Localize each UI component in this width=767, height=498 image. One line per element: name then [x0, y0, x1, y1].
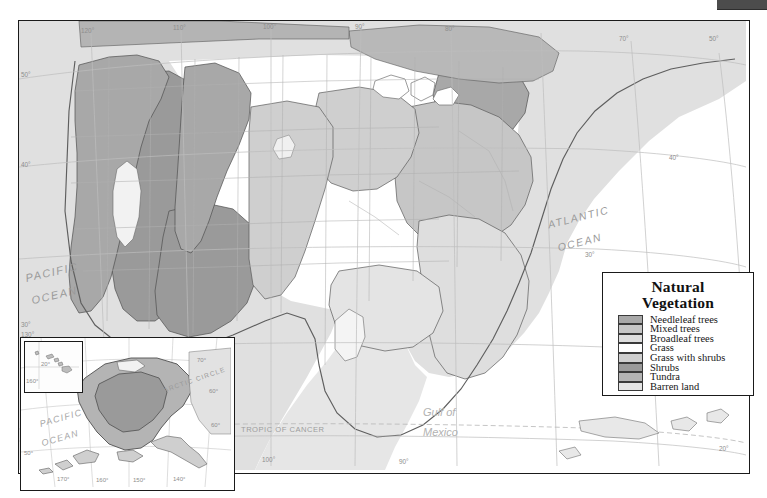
- legend-item: Shrubs: [618, 363, 747, 373]
- legend-title-line1: Natural: [609, 279, 747, 295]
- hawaii-lon-label: 160°: [26, 378, 38, 384]
- map-legend: Natural Vegetation Needleleaf treesMixed…: [602, 272, 754, 396]
- legend-swatch: [618, 363, 643, 373]
- lat-label-left-30: 30°: [21, 321, 31, 328]
- legend-title-line2: Vegetation: [609, 295, 747, 311]
- lon-label-70: 70°: [619, 35, 629, 42]
- legend-items: Needleleaf treesMixed treesBroadleaf tre…: [618, 315, 747, 392]
- legend-swatch: [618, 382, 643, 392]
- legend-title: Natural Vegetation: [609, 279, 747, 311]
- lon-label-80: 80°: [445, 25, 455, 32]
- alaska-left-lat-label: 50°: [24, 450, 33, 456]
- legend-item: Grass with shrubs: [618, 353, 747, 363]
- tropic-of-cancer-label: TROPIC OF CANCER: [241, 425, 325, 434]
- alaska-lon-label-150: 150°: [133, 477, 145, 483]
- legend-swatch: [618, 343, 643, 353]
- lon-label-bottom-100: 100°: [262, 456, 275, 463]
- hawaii-lat-label: 20°: [41, 361, 50, 367]
- alaska-lon-label-170: 170°: [57, 476, 69, 482]
- lat-label-right-20: 20°: [719, 445, 729, 452]
- lon-label-110: 110°: [173, 24, 186, 31]
- gulf-of-mexico-label: Gulf of: [423, 406, 455, 418]
- legend-swatch: [618, 324, 643, 334]
- lat-label-left-50: 50°: [21, 71, 31, 78]
- alaska-lat-label-60-right: 60°: [209, 388, 218, 394]
- lon-label-120: 120°: [81, 27, 94, 34]
- alaska-lat-label-70: 70°: [197, 357, 206, 363]
- lon-label-90: 90°: [355, 23, 365, 30]
- alaska-inset-map: 20° 160° ARCTIC CIRCLE PACIFIC OCEAN 170…: [20, 337, 235, 491]
- legend-swatch: [618, 353, 643, 363]
- legend-label: Barren land: [650, 382, 699, 392]
- legend-swatch: [618, 334, 643, 344]
- legend-swatch: [618, 315, 643, 325]
- legend-item: Broadleaf trees: [618, 334, 747, 344]
- hawaii-inset-map: 20° 160°: [24, 341, 83, 393]
- alaska-lon-label-160: 160°: [96, 477, 108, 483]
- alaska-lon-label-140: 140°: [173, 476, 185, 482]
- top-status-bar: [717, 0, 767, 10]
- lat-label-left-40: 40°: [21, 161, 31, 168]
- alaska-lat-label-60-lower: 60°: [211, 422, 220, 428]
- legend-item: Barren land: [618, 382, 747, 392]
- lon-label-100: 100°: [263, 23, 276, 30]
- gulf-of-mexico-label-line2: Mexico: [423, 426, 458, 438]
- lon-label-bottom-90: 90°: [399, 458, 409, 465]
- lat-label-right-30: 30°: [585, 251, 595, 258]
- lat-label-right-40: 40°: [669, 154, 679, 161]
- lat-label-right-50: 50°: [709, 35, 719, 42]
- legend-swatch: [618, 372, 643, 382]
